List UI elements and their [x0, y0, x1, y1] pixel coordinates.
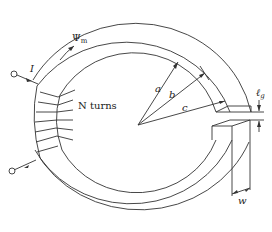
- outer-front-edge-lower: [40, 140, 232, 204]
- lead-bottom: [14, 160, 36, 170]
- gap-upper-face: [216, 106, 251, 112]
- outer-back-edge: [33, 23, 251, 112]
- terminal-bottom: [9, 168, 15, 174]
- toroid-diagram: I Ψm N turns a b c ℓg w: [0, 0, 272, 232]
- toroid-drawing: [0, 0, 272, 232]
- terminal-top: [11, 71, 17, 77]
- inner-edge-lower: [62, 140, 216, 193]
- radius-b-label: b: [169, 90, 175, 100]
- gap-lower-face: [212, 120, 250, 126]
- radius-a-label: a: [155, 84, 161, 94]
- outer-back-edge-lower: [35, 142, 249, 210]
- width-label: w: [238, 196, 247, 206]
- turns-label: N turns: [78, 101, 117, 111]
- flux-label: Ψm: [72, 33, 87, 46]
- gap-label: ℓg: [256, 88, 265, 101]
- current-label: I: [30, 64, 34, 74]
- coil-windings: [35, 90, 75, 152]
- radius-c-label: c: [182, 103, 188, 113]
